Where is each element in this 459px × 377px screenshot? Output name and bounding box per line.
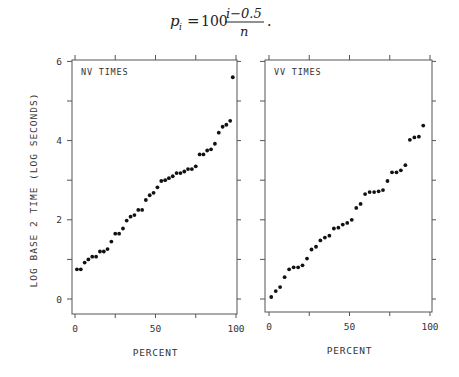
x-tick-label: 50 (150, 323, 162, 334)
data-point (305, 257, 309, 261)
data-point (224, 123, 228, 127)
x-tick-label: 50 (344, 321, 356, 332)
data-point (94, 255, 98, 259)
data-point (301, 263, 305, 267)
data-point (403, 163, 407, 167)
data-point (296, 265, 300, 269)
data-point (133, 213, 137, 217)
y-tick-label: 6 (56, 56, 62, 67)
data-point (129, 215, 133, 219)
data-point (323, 236, 327, 240)
data-point (117, 232, 121, 236)
data-point (140, 208, 144, 212)
data-point (163, 178, 167, 182)
x-tick-label: 0 (72, 323, 78, 334)
data-point (202, 153, 206, 157)
data-point (274, 289, 278, 293)
data-point (377, 189, 381, 193)
data-point (86, 258, 90, 262)
data-point (152, 191, 156, 195)
data-point (175, 171, 179, 175)
data-point (390, 170, 394, 174)
data-point (345, 221, 349, 225)
plot-frame (72, 60, 237, 314)
y-tick-label: 2 (56, 214, 62, 225)
data-point (231, 75, 235, 79)
data-point (113, 232, 117, 236)
data-point (167, 176, 171, 180)
y-tick-label: 4 (56, 135, 62, 146)
x-tick-label: 0 (266, 321, 272, 332)
data-point (283, 275, 287, 279)
data-point (336, 226, 340, 230)
data-point (372, 190, 376, 194)
data-point (417, 135, 421, 139)
data-point (90, 255, 94, 259)
data-point (341, 223, 345, 227)
data-point (421, 124, 425, 128)
data-point (318, 238, 322, 242)
x-axis-label: PERCENT (133, 347, 179, 358)
data-point (292, 265, 296, 269)
data-point (228, 119, 232, 123)
data-point (327, 234, 331, 238)
data-point (213, 142, 217, 146)
data-point (359, 202, 363, 206)
x-axis-label: PERCENT (327, 345, 373, 356)
data-point (287, 267, 291, 271)
chart-area: 0501000246NV TIMESPERCENT 050100VV TIMES… (0, 0, 459, 377)
data-point (198, 153, 202, 157)
data-point (381, 188, 385, 192)
data-point (368, 190, 372, 194)
data-point (156, 185, 160, 189)
x-tick-label: 100 (227, 323, 244, 334)
data-point (190, 167, 194, 171)
panel-title: NV TIMES (81, 67, 128, 77)
data-point (209, 147, 213, 151)
plot-frame (265, 60, 432, 312)
data-point (363, 192, 367, 196)
data-point (399, 168, 403, 172)
data-point (314, 245, 318, 249)
data-point (144, 198, 148, 202)
panel-vv-times: 050100VV TIMESPERCENT (260, 55, 439, 356)
data-point (186, 167, 190, 171)
data-point (109, 240, 113, 244)
data-point (98, 250, 102, 254)
data-point (269, 295, 273, 299)
data-point (217, 131, 221, 135)
y-axis-label: LOG BASE 2 TIME (LOG SECONDS) (28, 93, 39, 288)
panel-title: VV TIMES (274, 67, 321, 77)
data-point (159, 179, 163, 183)
data-point (221, 125, 225, 129)
data-point (386, 179, 390, 183)
data-point (205, 149, 209, 153)
data-point (136, 208, 140, 212)
data-point (332, 227, 336, 231)
data-point (75, 267, 79, 271)
data-point (83, 261, 87, 265)
data-point (350, 218, 354, 222)
data-point (182, 170, 186, 174)
data-point (121, 227, 125, 231)
data-point (412, 136, 416, 140)
data-point (310, 248, 314, 252)
data-point (395, 170, 399, 174)
data-point (179, 171, 183, 175)
data-point (125, 219, 129, 223)
data-point (79, 267, 83, 271)
data-point (102, 250, 106, 254)
data-point (354, 206, 358, 210)
data-point (194, 164, 198, 168)
data-point (106, 247, 110, 251)
panel-nv-times: 0501000246NV TIMESPERCENT (56, 55, 245, 358)
data-point (148, 193, 152, 197)
data-point (171, 174, 175, 178)
data-point (278, 285, 282, 289)
x-tick-label: 100 (421, 321, 438, 332)
y-tick-label: 0 (56, 294, 62, 305)
data-point (408, 138, 412, 142)
